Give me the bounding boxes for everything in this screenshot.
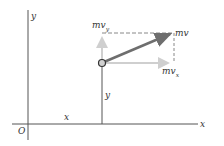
- momentum-x-subscript: x: [176, 71, 180, 78]
- x-coordinate-label: x: [64, 112, 69, 122]
- momentum-y-subscript: y: [105, 25, 110, 33]
- momentum-y-label: mvy: [92, 20, 110, 33]
- momentum-vector-arrow: [104, 34, 170, 62]
- x-axis-label: x: [200, 119, 205, 129]
- particle: [99, 60, 106, 67]
- y-axis-label: y: [30, 11, 37, 21]
- origin-label: O: [18, 126, 26, 136]
- momentum-label: mv: [175, 28, 189, 38]
- momentum-y-label-main: mv: [92, 20, 106, 30]
- momentum-diagram: y x O x y mv mvy mvx: [0, 0, 224, 146]
- momentum-x-label: mvx: [162, 66, 180, 78]
- y-coordinate-label: y: [104, 90, 111, 100]
- momentum-x-label-main: mv: [162, 66, 176, 76]
